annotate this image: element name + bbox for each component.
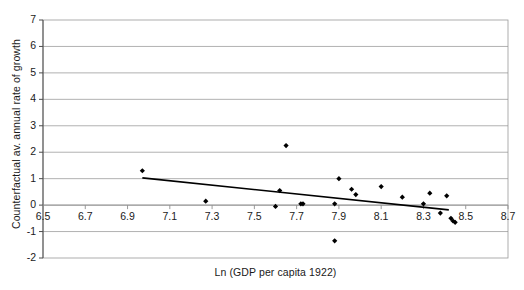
y-axis-tick-label: 6 [10, 40, 36, 51]
x-axis-tick-label: 6.5 [23, 211, 63, 222]
x-axis-tick-label: 6.7 [65, 211, 105, 222]
scatter-chart: Counterfactual av. annual rate of growth… [0, 0, 524, 290]
x-axis-tick-label: 8.7 [488, 211, 524, 222]
x-axis-tick-label: 6.9 [108, 211, 148, 222]
x-axis-tick-label: 7.5 [234, 211, 274, 222]
y-axis-tick-label: -1 [10, 226, 36, 237]
plot-area [0, 0, 524, 290]
x-axis-tick-label: 8.1 [361, 211, 401, 222]
y-axis-tick-label: 0 [10, 199, 36, 210]
x-axis-tick-label: 7.7 [277, 211, 317, 222]
y-axis-tick-label: 3 [10, 120, 36, 131]
y-axis-tick-label: 7 [10, 14, 36, 25]
x-axis-tick-label: 8.5 [446, 211, 486, 222]
y-axis-tick-label: 5 [10, 67, 36, 78]
x-axis-tick-label: 7.9 [319, 211, 359, 222]
x-axis-tick-label: 8.3 [403, 211, 443, 222]
y-axis-tick-label: 2 [10, 146, 36, 157]
x-axis-tick-label: 7.3 [192, 211, 232, 222]
y-axis-tick-label: -2 [10, 252, 36, 263]
x-axis-tick-label: 7.1 [150, 211, 190, 222]
y-axis-tick-label: 1 [10, 173, 36, 184]
y-axis-tick-label: 4 [10, 93, 36, 104]
plot-background [43, 20, 508, 258]
y-axis [39, 20, 43, 258]
